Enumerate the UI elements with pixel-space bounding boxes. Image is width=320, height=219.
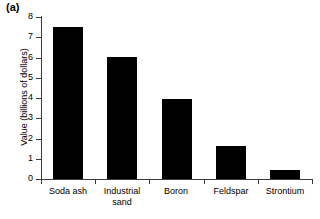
x-axis-line	[41, 179, 313, 180]
y-axis-tick-label: 6	[0, 53, 33, 62]
bar	[162, 99, 192, 179]
y-axis-tick-label: 8	[0, 12, 33, 21]
y-axis-tick-label: 1	[0, 154, 33, 163]
y-axis-tick-label: 3	[0, 113, 33, 122]
bar	[270, 170, 300, 179]
x-axis-tick	[149, 180, 150, 184]
x-axis-category-label: Soda ash	[41, 186, 95, 197]
x-axis-category-label-line: Soda ash	[41, 186, 95, 197]
bar	[216, 146, 246, 179]
bar	[53, 27, 83, 179]
x-axis-category-label-line: Industrial	[95, 186, 149, 197]
x-axis-category-label-line: sand	[95, 197, 149, 208]
x-axis-tick	[41, 180, 42, 184]
x-axis-tick	[95, 180, 96, 184]
x-axis-category-label-line: Feldspar	[204, 186, 258, 197]
x-axis-tick	[204, 180, 205, 184]
y-axis-tick-label: 4	[0, 93, 33, 102]
x-axis-category-label: Strontium	[258, 186, 312, 197]
bar	[107, 57, 137, 179]
x-axis-category-label-line: Boron	[149, 186, 203, 197]
y-axis-tick-label: 2	[0, 134, 33, 143]
x-axis-category-label-line: Strontium	[258, 186, 312, 197]
x-axis-tick	[312, 180, 313, 184]
x-axis-category-label: Boron	[149, 186, 203, 197]
y-axis-tick-label: 5	[0, 73, 33, 82]
y-axis-tick-label: 7	[0, 32, 33, 41]
x-axis-tick	[258, 180, 259, 184]
y-axis-tick-label: 0	[0, 174, 33, 183]
figure-panel-a: (a) Value (billions of dollars) 01234567…	[0, 0, 320, 219]
x-axis-category-label: Industrialsand	[95, 186, 149, 208]
x-axis-category-label: Feldspar	[204, 186, 258, 197]
plot-area	[41, 17, 312, 179]
